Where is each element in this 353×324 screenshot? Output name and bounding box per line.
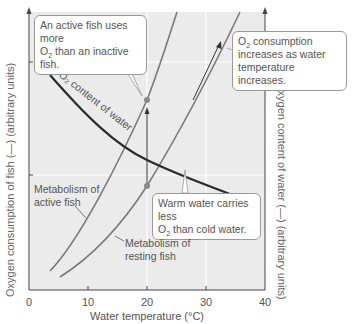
label-line: resting fish — [125, 250, 190, 263]
resting-marker — [144, 183, 150, 189]
y-axis-right-arrow-icon — [263, 7, 268, 14]
callout-active-fish: An active fish uses more O2 than an inac… — [34, 15, 147, 75]
x-tick-label: 20 — [141, 296, 153, 308]
resting-fish-label: Metabolism of resting fish — [125, 237, 190, 263]
callout-text: O2 than an inactive fish. — [40, 45, 141, 71]
label-line: Metabolism of — [34, 183, 99, 196]
x-tick-label: 0 — [26, 296, 32, 308]
callout-warm-water: Warm water carries less O2 than cold wat… — [152, 193, 261, 240]
x-tick-label: 30 — [200, 296, 212, 308]
x-tick-label: 40 — [259, 296, 271, 308]
y-axis-right-label: Oxygen content of water (—) (arbitrary u… — [276, 82, 288, 300]
y-axis-left-label: Oxygen consumption of fish (—) (arbitrar… — [4, 63, 16, 297]
callout-text: An active fish uses more — [40, 19, 141, 45]
label-line: Metabolism of — [125, 237, 190, 250]
active-fish-label: Metabolism of active fish — [34, 183, 99, 209]
callout-text: O2 consumption — [238, 35, 341, 48]
x-axis-label: Water temperature (°C) — [90, 310, 204, 322]
label-line: active fish — [34, 196, 99, 209]
active-marker — [144, 97, 150, 103]
x-tick-label: 10 — [82, 296, 94, 308]
y-axis-left-arrow-icon — [27, 7, 32, 14]
callout-text: increases as water — [238, 48, 341, 61]
callout-text: temperature increases. — [238, 61, 341, 87]
callout-consumption: O2 consumption increases as water temper… — [232, 31, 347, 91]
callout-text: O2 than cold water. — [158, 223, 255, 236]
callout-text: Warm water carries less — [158, 197, 255, 223]
